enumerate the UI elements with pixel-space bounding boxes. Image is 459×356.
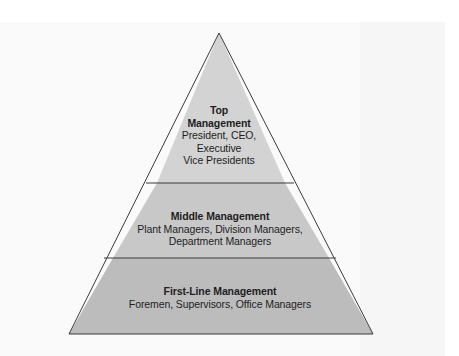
tier-middle-title: Middle Management bbox=[120, 210, 320, 223]
tier-bottom-label: First-Line Management Foremen, Superviso… bbox=[100, 285, 340, 310]
tier-middle-desc-1: Plant Managers, Division Managers, bbox=[120, 223, 320, 236]
tier-middle-label: Middle Management Plant Managers, Divisi… bbox=[120, 210, 320, 248]
tier-top-title-2: Management bbox=[169, 117, 269, 130]
tier-top-title-1: Top bbox=[169, 104, 269, 117]
tier-bottom-title: First-Line Management bbox=[100, 285, 340, 298]
tier-top-desc-2: Executive bbox=[169, 142, 269, 155]
tier-top-label: Top Management President, CEO, Executive… bbox=[169, 104, 269, 167]
tier-middle-desc-2: Department Managers bbox=[120, 235, 320, 248]
tier-top-desc-1: President, CEO, bbox=[169, 129, 269, 142]
tier-bottom-desc-1: Foremen, Supervisors, Office Managers bbox=[100, 298, 340, 311]
tier-top-desc-3: Vice Presidents bbox=[169, 154, 269, 167]
